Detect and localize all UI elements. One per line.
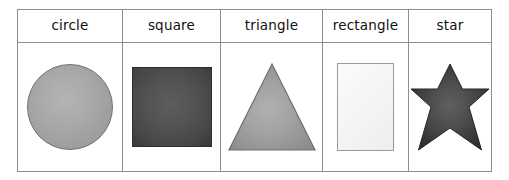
header-cell-star: star (409, 10, 491, 42)
header-label: triangle (245, 19, 299, 33)
header-cell-triangle: triangle (221, 10, 323, 42)
header-label: square (148, 19, 195, 33)
screenshot-canvas: circle square triangle rectangle star (0, 0, 509, 180)
shape-container (123, 43, 220, 171)
table-shapes-row (18, 43, 491, 171)
shape-cell-rectangle (323, 43, 409, 171)
header-label: rectangle (333, 19, 399, 33)
six-pointed-star-shape (411, 62, 489, 152)
shape-cell-triangle (221, 43, 323, 171)
shape-container (18, 43, 122, 171)
shape-cell-square (123, 43, 221, 171)
triangle-shape (226, 61, 318, 153)
shape-cell-star (409, 43, 491, 171)
header-label: circle (51, 19, 88, 33)
header-cell-square: square (123, 10, 221, 42)
shape-container (409, 43, 491, 171)
shape-container (323, 43, 408, 171)
header-cell-circle: circle (18, 10, 123, 42)
shape-cell-circle (18, 43, 123, 171)
square-shape (132, 67, 212, 147)
circle-shape (27, 64, 113, 150)
rectangle-shape (337, 63, 394, 151)
shapes-table: circle square triangle rectangle star (17, 9, 492, 172)
header-label: star (437, 19, 464, 33)
header-cell-rectangle: rectangle (323, 10, 409, 42)
shape-container (221, 43, 322, 171)
table-header-row: circle square triangle rectangle star (18, 10, 491, 43)
